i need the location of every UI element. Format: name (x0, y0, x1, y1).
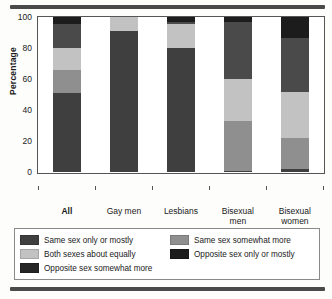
bar-segment (110, 17, 138, 31)
bar-segment (167, 24, 195, 49)
y-tick-label-100: 100 (6, 13, 32, 22)
bar-column-bisexual-women[interactable] (266, 17, 323, 172)
legend-label: Both sexes about equally (44, 250, 136, 259)
bottom-divider-rule (10, 287, 325, 291)
bar-group (38, 17, 323, 172)
x-tick-label-gay-men: Gay men (95, 206, 152, 226)
bar-segment (224, 22, 252, 79)
bar-segment (224, 79, 252, 121)
y-tick-label-60: 60 (6, 75, 32, 84)
y-tick-label-80: 80 (6, 44, 32, 53)
x-tick-mark (38, 186, 39, 190)
legend-swatch-icon (20, 235, 39, 245)
legend-swatch-icon (20, 249, 39, 259)
x-tick-label-bisexual-men: Bisexualmen (209, 206, 266, 226)
stacked-bar (110, 17, 138, 172)
bar-segment (281, 92, 309, 139)
bar-segment (110, 31, 138, 172)
plot-area: Percentage 020406080100 AllGay menLesbia… (0, 14, 332, 190)
legend-label: Opposite sex only or mostly (194, 250, 295, 259)
bar-column-all[interactable] (38, 17, 95, 172)
bar-segment (53, 93, 81, 172)
bar-segment (281, 138, 309, 169)
x-tick-label-bisexual-women: Bisexualwomen (266, 206, 323, 226)
y-tick-label-20: 20 (6, 137, 32, 146)
stacked-bar (224, 17, 252, 172)
legend-item[interactable]: Both sexes about equally (20, 249, 170, 259)
x-tick-mark (209, 186, 210, 190)
bar-column-bisexual-men[interactable] (209, 17, 266, 172)
y-tick-label-40: 40 (6, 106, 32, 115)
x-tick-mark (152, 186, 153, 190)
x-tick-label-line: All (38, 206, 95, 216)
legend-item[interactable]: Same sex only or mostly (20, 235, 170, 245)
top-divider-rule (10, 5, 325, 9)
x-tick-label-line: Bisexual (209, 206, 266, 216)
stacked-bar (281, 17, 309, 172)
x-tick-label-line: Gay men (95, 206, 152, 216)
bar-segment (281, 38, 309, 92)
bar-segment (167, 48, 195, 172)
x-tick-label-line: Lesbians (152, 206, 209, 216)
x-tick-mark (323, 186, 324, 190)
x-tick-label-line: men (209, 216, 266, 226)
bar-column-gay-men[interactable] (95, 17, 152, 172)
legend-grid: Same sex only or mostlySame sex somewhat… (20, 233, 314, 275)
bar-segment (53, 48, 81, 70)
x-tick-mark (266, 186, 267, 190)
chart-figure: Percentage 020406080100 AllGay menLesbia… (0, 0, 332, 299)
x-tick-mark (95, 186, 96, 190)
x-tick-label-line: Bisexual (266, 206, 323, 216)
legend-label: Same sex only or mostly (44, 236, 133, 245)
x-tick-label-all: All (38, 206, 95, 226)
legend-item[interactable]: Opposite sex only or mostly (170, 249, 320, 259)
legend-item[interactable]: Same sex somewhat more (170, 235, 320, 245)
y-axis-tick-labels: 020406080100 (4, 14, 32, 174)
chart-legend: Same sex only or mostlySame sex somewhat… (14, 228, 320, 280)
bar-segment (53, 70, 81, 93)
bar-segment (224, 121, 252, 171)
bar-segment (281, 17, 309, 37)
bar-segment (53, 24, 81, 49)
legend-label: Opposite sex somewhat more (44, 264, 152, 273)
x-tick-label-lesbians: Lesbians (152, 206, 209, 226)
legend-swatch-icon (20, 263, 39, 273)
x-axis-tick-labels: AllGay menLesbiansBisexualmenBisexualwom… (38, 206, 323, 226)
legend-swatch-icon (170, 249, 189, 259)
bar-column-lesbians[interactable] (152, 17, 209, 172)
legend-label: Same sex somewhat more (194, 236, 291, 245)
stacked-bar (167, 17, 195, 172)
x-tick-label-line: women (266, 216, 323, 226)
legend-item[interactable]: Opposite sex somewhat more (20, 263, 170, 273)
stacked-bar (53, 17, 81, 172)
legend-swatch-icon (170, 235, 189, 245)
bar-segment (224, 171, 252, 173)
y-tick-label-0: 0 (6, 168, 32, 177)
bar-segment (281, 169, 309, 172)
